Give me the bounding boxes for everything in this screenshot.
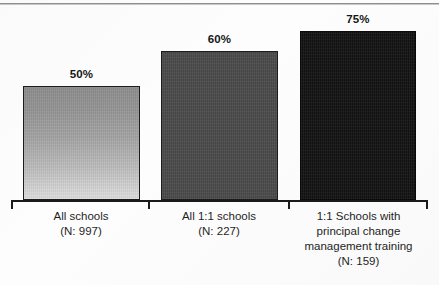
- axis-tick-1: [148, 200, 150, 209]
- category-label-line: management training: [289, 239, 428, 254]
- category-label-11-schools-training: 1:1 Schools with principal change manage…: [289, 209, 428, 269]
- bar-all-schools: [23, 86, 140, 200]
- chart-figure: 50% 60% 75% All schools (N: 997) All 1:1…: [0, 0, 439, 285]
- category-label-all-schools: All schools (N: 997): [12, 209, 150, 239]
- bar-all-11-schools: [161, 51, 278, 200]
- axis-tick-left: [11, 200, 13, 209]
- axis-tick-2: [288, 200, 290, 209]
- category-label-all-11-schools: All 1:1 schools (N: 227): [150, 209, 288, 239]
- bar-value-label-all-11-schools: 60%: [161, 33, 278, 45]
- bar-value-label-all-schools: 50%: [23, 68, 140, 80]
- bar-11-schools-training: [300, 31, 416, 200]
- x-axis-baseline: [11, 200, 428, 202]
- category-label-line: (N: 159): [289, 254, 428, 269]
- plot-area: 50% 60% 75% All schools (N: 997) All 1:1…: [0, 0, 439, 285]
- category-label-line: All schools: [12, 209, 150, 224]
- category-label-line: (N: 997): [12, 224, 150, 239]
- bar-value-label-11-schools-training: 75%: [300, 13, 416, 25]
- category-label-line: (N: 227): [150, 224, 288, 239]
- category-label-line: 1:1 Schools with: [289, 209, 428, 224]
- axis-tick-right: [426, 200, 428, 209]
- category-label-line: All 1:1 schools: [150, 209, 288, 224]
- category-label-line: principal change: [289, 224, 428, 239]
